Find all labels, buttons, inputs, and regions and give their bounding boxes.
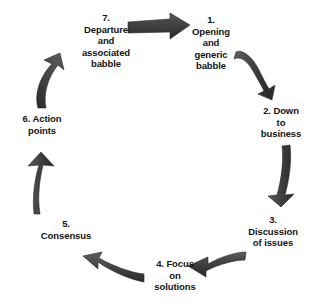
node-label-1: 1. Opening and generic babble	[178, 14, 244, 72]
arrow-2-to-3-icon	[262, 143, 302, 211]
arrow-4-to-5-icon	[80, 250, 146, 286]
node-label-5: 5. Consensus	[30, 218, 102, 241]
node-label-6: 6. Action points	[8, 113, 76, 136]
node-label-2: 2. Down to business	[250, 105, 312, 140]
node-label-4: 4. Focus on solutions	[140, 258, 210, 293]
arrow-5-to-6-icon	[20, 148, 60, 216]
cycle-diagram: 7. Departure and associated babble 1. Op…	[0, 0, 314, 307]
node-label-7: 7. Departure and associated babble	[70, 12, 142, 70]
node-label-3: 3. Discussion of issues	[234, 214, 312, 249]
